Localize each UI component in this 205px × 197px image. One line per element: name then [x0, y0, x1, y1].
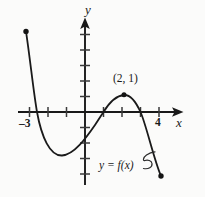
function-label: y = f(x) — [99, 160, 134, 172]
curve-left-endpoint-dot — [23, 29, 28, 34]
x-tick-label-neg3: –3 — [19, 118, 31, 130]
curve-right-endpoint-dot — [158, 173, 163, 178]
curve-vertex-dot — [122, 92, 127, 97]
x-axis-label: x — [176, 116, 182, 129]
x-tick-label-4: 4 — [155, 117, 161, 129]
vertex-point-label: (2, 1) — [113, 73, 138, 85]
function-curve — [26, 31, 161, 176]
function-graph-figure: y x –3 4 (2, 1) y = f(x) — [0, 0, 205, 197]
y-axis-label: y — [85, 3, 91, 16]
